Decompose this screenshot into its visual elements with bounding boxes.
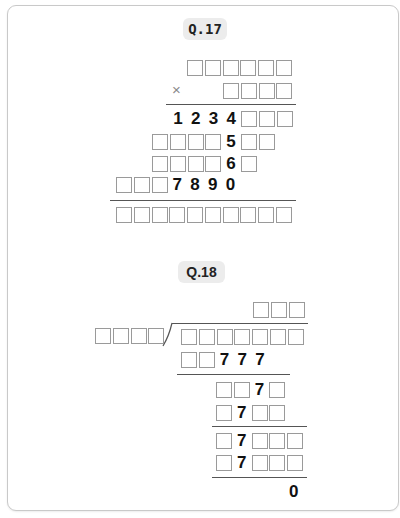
answer-box[interactable] — [251, 405, 269, 421]
answer-box[interactable] — [198, 352, 216, 368]
answer-box[interactable] — [187, 156, 205, 172]
step-rule-1 — [177, 374, 290, 375]
answer-box[interactable] — [215, 433, 233, 449]
answer-box[interactable] — [112, 328, 130, 344]
answer-box[interactable] — [269, 329, 287, 345]
answer-box[interactable] — [240, 111, 258, 127]
answer-box[interactable] — [287, 329, 305, 345]
given-digit: 7 — [233, 352, 251, 368]
answer-box[interactable] — [198, 329, 216, 345]
partial-product-row-4: 7890 — [115, 177, 239, 193]
answer-box[interactable] — [275, 60, 293, 76]
answer-box[interactable] — [204, 156, 222, 172]
answer-box[interactable] — [222, 60, 240, 76]
step-rule-3 — [212, 477, 307, 478]
answer-box[interactable] — [169, 156, 187, 172]
answer-box[interactable] — [133, 207, 151, 223]
given-digit: 7 — [233, 433, 251, 449]
answer-box[interactable] — [268, 455, 286, 471]
question-label-17: Q.17 — [183, 18, 227, 40]
answer-box[interactable] — [204, 134, 222, 150]
given-digit: 7 — [216, 352, 234, 368]
answer-box[interactable] — [275, 83, 293, 99]
answer-box[interactable] — [216, 329, 234, 345]
multiplicand-row — [186, 60, 293, 76]
given-digit: 4 — [222, 111, 240, 127]
step-rule-2 — [212, 426, 307, 427]
dividend-row — [180, 329, 304, 345]
quotient-row — [252, 302, 305, 318]
answer-box[interactable] — [276, 111, 294, 127]
given-digit: 7 — [251, 352, 269, 368]
answer-box[interactable] — [115, 207, 133, 223]
answer-box[interactable] — [204, 207, 222, 223]
answer-box[interactable] — [233, 329, 251, 345]
answer-box[interactable] — [268, 405, 286, 421]
answer-box[interactable] — [258, 134, 276, 150]
partial-product-row-2: 5 — [151, 134, 275, 150]
answer-box[interactable] — [151, 207, 169, 223]
answer-box[interactable] — [257, 207, 275, 223]
answer-box[interactable] — [169, 134, 187, 150]
answer-box[interactable] — [288, 302, 306, 318]
answer-box[interactable] — [180, 352, 198, 368]
answer-box[interactable] — [252, 302, 270, 318]
answer-box[interactable] — [130, 328, 148, 344]
answer-box[interactable] — [215, 405, 233, 421]
multiply-sign-icon: × — [172, 83, 181, 97]
answer-box[interactable] — [239, 60, 257, 76]
answer-box[interactable] — [222, 207, 240, 223]
step-row-5: 7 — [215, 455, 304, 471]
answer-box[interactable] — [187, 134, 205, 150]
answer-box[interactable] — [251, 455, 269, 471]
answer-box[interactable] — [94, 328, 112, 344]
question-label-18: Q.18 — [178, 261, 225, 283]
answer-box[interactable] — [186, 207, 204, 223]
answer-box[interactable] — [147, 328, 165, 344]
answer-box[interactable] — [251, 329, 269, 345]
answer-box[interactable] — [275, 207, 293, 223]
step-row-3: 7 — [215, 405, 286, 421]
answer-box[interactable] — [258, 111, 276, 127]
answer-box[interactable] — [151, 177, 169, 193]
answer-box[interactable] — [286, 455, 304, 471]
answer-box[interactable] — [151, 156, 169, 172]
given-digit: 8 — [186, 177, 204, 193]
remainder-value: 0 — [289, 484, 298, 500]
answer-box[interactable] — [268, 433, 286, 449]
answer-box[interactable] — [233, 382, 251, 398]
partial-product-row-3: 6 — [151, 156, 258, 172]
answer-box[interactable] — [286, 433, 304, 449]
answer-box[interactable] — [258, 83, 276, 99]
final-product-row — [115, 207, 293, 223]
answer-box[interactable] — [240, 134, 258, 150]
multiplier-row — [222, 83, 293, 99]
answer-box[interactable] — [270, 302, 288, 318]
given-digit: 1 — [169, 111, 187, 127]
answer-box[interactable] — [168, 207, 186, 223]
answer-box[interactable] — [268, 382, 286, 398]
answer-box[interactable] — [133, 177, 151, 193]
partial-product-row-1: 1234 — [169, 111, 293, 127]
answer-box[interactable] — [239, 207, 257, 223]
answer-box[interactable] — [180, 329, 198, 345]
answer-box[interactable] — [215, 382, 233, 398]
step-row-1: 777 — [180, 352, 269, 368]
given-digit: 0 — [222, 177, 240, 193]
answer-box[interactable] — [186, 60, 204, 76]
step-row-4: 7 — [215, 433, 304, 449]
answer-box[interactable] — [240, 83, 258, 99]
given-digit: 2 — [187, 111, 205, 127]
answer-box[interactable] — [251, 433, 269, 449]
puzzle-card — [7, 5, 399, 511]
answer-box[interactable] — [115, 177, 133, 193]
answer-box[interactable] — [222, 83, 240, 99]
answer-box[interactable] — [151, 134, 169, 150]
division-overline — [172, 323, 308, 324]
given-digit: 5 — [222, 134, 240, 150]
answer-box[interactable] — [257, 60, 275, 76]
answer-box[interactable] — [215, 455, 233, 471]
answer-box[interactable] — [204, 60, 222, 76]
given-digit: 7 — [233, 455, 251, 471]
answer-box[interactable] — [240, 156, 258, 172]
